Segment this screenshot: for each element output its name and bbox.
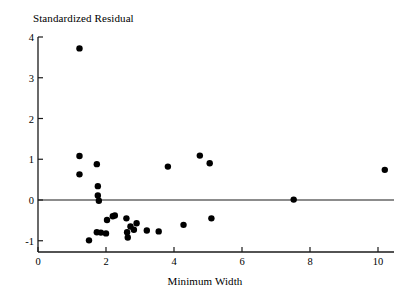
x-axis-title: Minimum Width <box>0 275 410 287</box>
data-point <box>131 227 137 233</box>
scatter-plot-figure: Standardized Residual Minimum Width 0246… <box>0 0 410 296</box>
x-tick-label: 10 <box>373 256 384 267</box>
data-point <box>76 171 82 177</box>
data-point <box>94 161 100 167</box>
data-point <box>95 183 101 189</box>
y-tick-label: 1 <box>16 154 34 165</box>
y-tick-label: 2 <box>16 113 34 124</box>
y-tick-label: 3 <box>16 72 34 83</box>
y-tick-label: 4 <box>16 32 34 43</box>
data-point <box>382 167 388 173</box>
plot-canvas <box>0 0 410 296</box>
data-point <box>76 45 82 51</box>
x-tick-label: 2 <box>103 256 108 267</box>
y-axis-title: Standardized Residual <box>33 12 134 24</box>
data-point <box>197 152 203 158</box>
x-tick-label: 6 <box>239 256 244 267</box>
axis-lines <box>38 37 394 252</box>
data-point-group <box>76 45 388 243</box>
data-point <box>290 196 296 202</box>
x-tick-label: 8 <box>307 256 312 267</box>
data-point <box>104 217 110 223</box>
data-point <box>96 198 102 204</box>
data-point <box>156 228 162 234</box>
data-point <box>207 160 213 166</box>
data-point <box>103 230 109 236</box>
x-tick-label: 4 <box>171 256 176 267</box>
tick-marks <box>38 37 378 252</box>
data-point <box>112 212 118 218</box>
x-tick-label: 0 <box>35 256 40 267</box>
data-point <box>180 222 186 228</box>
data-point <box>125 234 131 240</box>
data-point <box>95 192 101 198</box>
data-point <box>144 227 150 233</box>
data-point <box>208 215 214 221</box>
y-tick-label: 0 <box>16 195 34 206</box>
data-point <box>123 215 129 221</box>
data-point <box>76 153 82 159</box>
data-point <box>133 220 139 226</box>
data-point <box>165 163 171 169</box>
y-tick-label: -1 <box>16 235 34 246</box>
data-point <box>86 237 92 243</box>
